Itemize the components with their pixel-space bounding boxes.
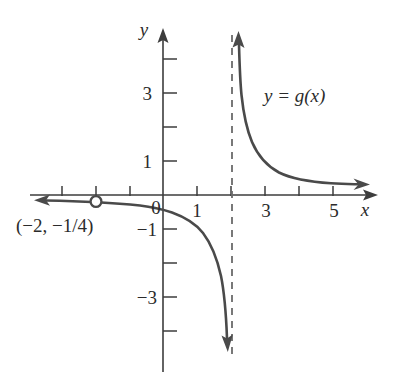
y-tick-label--1: −1 <box>137 219 157 240</box>
x-tick-label-5: 5 <box>329 200 339 221</box>
x-tick-label-3: 3 <box>261 200 271 221</box>
function-label: y = g(x) <box>262 85 325 107</box>
x-tick-label-1: 1 <box>192 200 202 221</box>
x-axis-label: x <box>360 199 370 220</box>
origin-label: 0 <box>151 197 161 218</box>
y-axis-label: y <box>138 19 149 40</box>
open-circle-hole-point <box>91 196 102 207</box>
y-tick-label-1: 1 <box>143 151 153 172</box>
right-branch-path <box>239 45 358 184</box>
graph-figure: y x 0 1 3 5 3 1 −1 −3 y = g(x) (−2, −1/4… <box>0 0 394 387</box>
x-axis <box>30 186 378 201</box>
curve-right-branch <box>233 31 371 190</box>
y-tick-label--3: −3 <box>137 287 157 308</box>
coordinate-plot: y x 0 1 3 5 3 1 −1 −3 y = g(x) (−2, −1/4… <box>0 0 394 387</box>
hole-point-label: (−2, −1/4) <box>16 215 93 237</box>
y-tick-label-3: 3 <box>143 83 153 104</box>
